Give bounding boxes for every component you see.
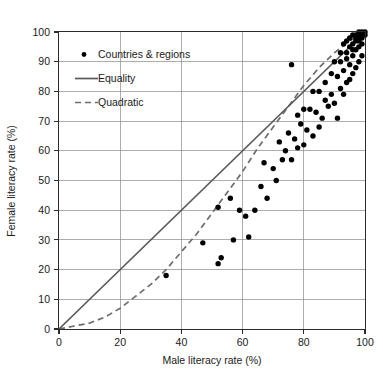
data-point [335, 74, 340, 79]
x-tick-label: 100 [356, 336, 374, 348]
data-point [252, 208, 257, 213]
data-point [237, 208, 242, 213]
data-point [215, 261, 220, 266]
data-point [323, 98, 328, 103]
y-tick-label: 80 [38, 85, 50, 97]
data-point [341, 92, 346, 97]
data-point [163, 273, 168, 278]
y-tick-label: 30 [38, 234, 50, 246]
data-point [344, 50, 349, 55]
y-tick-label: 20 [38, 263, 50, 275]
data-point [292, 136, 297, 141]
data-point [283, 148, 288, 153]
data-point [341, 68, 346, 73]
x-axis-title: Male literacy rate (%) [162, 354, 261, 366]
y-tick-label: 90 [38, 55, 50, 67]
data-point [295, 145, 300, 150]
data-point [353, 65, 358, 70]
data-point [326, 104, 331, 109]
data-point [298, 121, 303, 126]
data-point [341, 41, 346, 46]
data-point [316, 89, 321, 94]
data-point [332, 101, 337, 106]
x-tick-label: 0 [56, 336, 62, 348]
data-point [347, 62, 352, 67]
y-tick-label: 40 [38, 204, 50, 216]
y-tick-label: 50 [38, 174, 50, 186]
data-point [277, 139, 282, 144]
data-point [338, 50, 343, 55]
legend-label-quadratic: Quadratic [98, 96, 144, 108]
data-point [261, 160, 266, 165]
data-point [286, 130, 291, 135]
data-point [258, 184, 263, 189]
data-point [243, 213, 248, 218]
data-point [338, 59, 343, 64]
legend-label-countries: Countries & regions [98, 48, 190, 60]
figure-container: 0102030405060708090100 020406080100 Coun… [0, 0, 383, 381]
data-point [338, 86, 343, 91]
data-point [264, 196, 269, 201]
y-tick-label: 60 [38, 144, 50, 156]
data-point [246, 234, 251, 239]
data-point [295, 112, 300, 117]
x-tick-label: 20 [114, 336, 126, 348]
data-point [289, 62, 294, 67]
x-tick-label: 60 [237, 336, 249, 348]
data-point [350, 53, 355, 58]
data-point [316, 124, 321, 129]
data-point [271, 166, 276, 171]
data-point [359, 53, 364, 58]
data-point [353, 32, 358, 37]
literacy-scatter-chart: 0102030405060708090100 020406080100 Coun… [0, 0, 383, 381]
data-point [304, 127, 309, 132]
y-tick-label: 0 [44, 323, 50, 335]
data-point [301, 107, 306, 112]
data-point [231, 237, 236, 242]
data-point [350, 71, 355, 76]
data-point [313, 109, 318, 114]
y-axis-title: Female literacy rate (%) [5, 125, 17, 236]
data-point [323, 80, 328, 85]
data-point [319, 115, 324, 120]
legend-label-equality: Equality [98, 72, 136, 84]
data-point [335, 115, 340, 120]
data-point [329, 71, 334, 76]
data-point [329, 92, 334, 97]
legend-marker-countries-icon [82, 52, 87, 57]
data-point [347, 77, 352, 82]
data-point [301, 142, 306, 147]
data-point [307, 107, 312, 112]
data-point [274, 178, 279, 183]
data-point [289, 157, 294, 162]
data-point [310, 133, 315, 138]
chart-background [0, 0, 383, 381]
data-point [218, 255, 223, 260]
y-tick-label: 100 [32, 26, 50, 38]
x-tick-label: 40 [176, 336, 188, 348]
data-point [228, 196, 233, 201]
x-tick-label: 80 [298, 336, 310, 348]
data-point [344, 56, 349, 61]
y-tick-label: 70 [38, 115, 50, 127]
y-tick-label: 10 [38, 293, 50, 305]
data-point [350, 47, 355, 52]
data-point [200, 240, 205, 245]
data-point [215, 205, 220, 210]
data-point [332, 59, 337, 64]
data-point [310, 89, 315, 94]
data-point [356, 59, 361, 64]
data-point [280, 157, 285, 162]
